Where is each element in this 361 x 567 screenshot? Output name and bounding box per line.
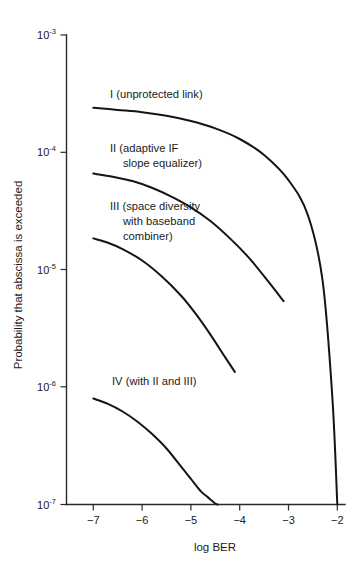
y-axis-ticks — [61, 35, 67, 505]
svg-text:10-5: 10-5 — [37, 262, 56, 276]
svg-text:10-7: 10-7 — [37, 497, 56, 511]
y-tick-exp-0: -3 — [49, 27, 56, 36]
x-tick-label-1: −6 — [136, 514, 149, 526]
x-axis-tick-labels: −7 −6 −5 −4 −3 −2 — [87, 514, 344, 526]
svg-text:10-4: 10-4 — [37, 144, 56, 158]
y-tick-base-3: 10 — [37, 381, 49, 393]
curve-label-three-line3: combiner) — [123, 230, 173, 242]
y-tick-base-1: 10 — [37, 146, 49, 158]
y-tick-base-2: 10 — [37, 264, 49, 276]
x-tick-label-2: −5 — [185, 514, 198, 526]
figure-container: 10-3 10-4 10-5 10-6 10-7 — [0, 0, 361, 567]
y-tick-exp-4: -7 — [49, 497, 56, 506]
y-tick-base-4: 10 — [37, 499, 49, 511]
y-tick-exp-2: -5 — [49, 262, 56, 271]
curve-label-four: IV (with II and III) — [112, 375, 197, 387]
curve-adaptive-if-slope-equalizer — [93, 174, 283, 302]
curve-label-one: I (unprotected link) — [110, 88, 203, 100]
y-tick-exp-3: -6 — [49, 379, 56, 388]
curve-label-two-line2: slope equalizer) — [123, 157, 202, 169]
svg-text:10-3: 10-3 — [37, 27, 56, 41]
curve-annotations: I (unprotected link) II (adaptive IF slo… — [110, 88, 203, 387]
y-axis-title: Probability that abscissa is exceeded — [12, 181, 24, 370]
x-axis-ticks — [93, 505, 337, 511]
curve-label-three-line1: III (space diversity — [110, 200, 201, 212]
curve-label-three-line2: with baseband — [122, 215, 195, 227]
x-tick-label-3: −4 — [233, 514, 246, 526]
chart-plot: 10-3 10-4 10-5 10-6 10-7 — [0, 0, 361, 567]
y-tick-exp-1: -4 — [49, 144, 56, 153]
curve-space-diversity-baseband-combiner — [93, 238, 235, 371]
y-axis-tick-labels: 10-3 10-4 10-5 10-6 10-7 — [37, 27, 56, 511]
svg-text:10-6: 10-6 — [37, 379, 56, 393]
curve-label-two-line1: II (adaptive IF — [110, 142, 179, 154]
x-tick-label-5: −2 — [331, 514, 344, 526]
x-tick-label-4: −3 — [282, 514, 295, 526]
curve-with-ii-and-iii — [93, 399, 217, 505]
x-axis-title: log BER — [194, 541, 236, 553]
y-tick-base-0: 10 — [37, 29, 49, 41]
x-tick-label-0: −7 — [87, 514, 100, 526]
